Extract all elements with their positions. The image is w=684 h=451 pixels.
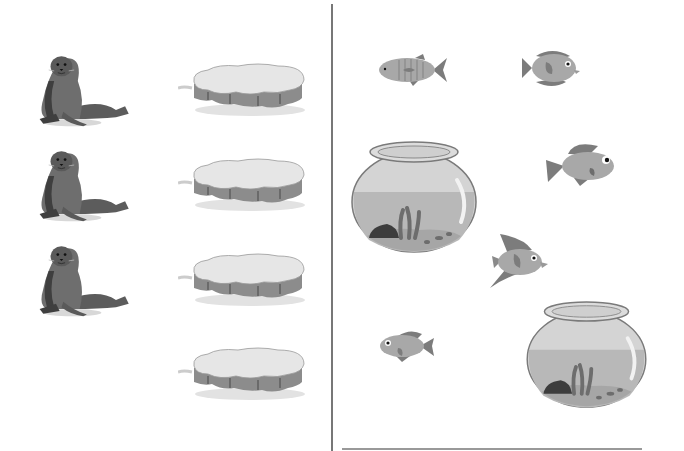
fish-4[interactable] — [488, 230, 548, 290]
bottom-rule — [342, 448, 642, 450]
cichlid-fish-icon — [544, 138, 624, 188]
ice-floe-icon — [178, 62, 313, 117]
seal-2[interactable] — [36, 148, 136, 222]
ice-floe-4[interactable] — [178, 346, 313, 401]
fishbowl-icon — [349, 140, 479, 255]
seal-icon — [36, 53, 136, 127]
ice-floe-1[interactable] — [178, 62, 313, 117]
fishbowl-2[interactable] — [524, 300, 649, 410]
ice-floe-3[interactable] — [178, 252, 313, 307]
fish-3[interactable] — [544, 138, 624, 188]
seal-icon — [36, 148, 136, 222]
fish-2[interactable] — [518, 46, 583, 91]
ice-floe-icon — [178, 157, 313, 212]
ice-floe-icon — [178, 346, 313, 401]
fishbowl-1[interactable] — [349, 140, 479, 255]
angelfish-icon — [488, 230, 548, 290]
panel-divider — [331, 4, 333, 451]
ice-floe-2[interactable] — [178, 157, 313, 212]
seal-3[interactable] — [36, 243, 136, 317]
striped-fish-icon — [375, 50, 450, 90]
fishbowl-icon — [524, 300, 649, 410]
fish-5[interactable] — [376, 328, 436, 363]
seal-icon — [36, 243, 136, 317]
ice-floe-icon — [178, 252, 313, 307]
tang-fish-icon — [518, 46, 583, 91]
fish-1[interactable] — [375, 50, 450, 90]
small-fish-icon — [376, 328, 436, 363]
seal-1[interactable] — [36, 53, 136, 127]
